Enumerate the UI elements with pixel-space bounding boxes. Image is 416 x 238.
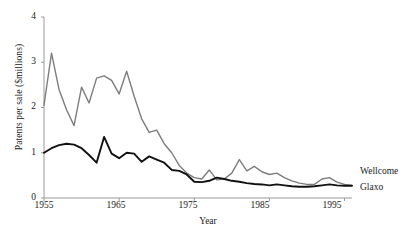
series-line-wellcome — [44, 53, 352, 185]
plot-area — [0, 0, 416, 238]
series-line-glaxo — [44, 137, 352, 187]
line-chart-figure: Patents per sale ($millions) 4 3 2 1 0 1… — [0, 0, 416, 238]
axis-lines — [44, 17, 352, 198]
